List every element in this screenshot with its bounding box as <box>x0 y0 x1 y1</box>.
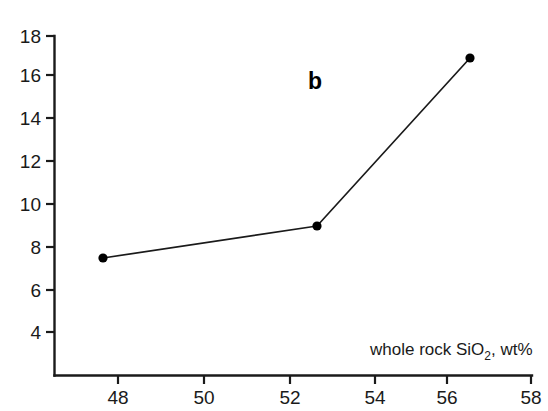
data-point <box>465 53 474 62</box>
panel-label: b <box>308 68 322 94</box>
y-tick-labels: 18 16 14 12 10 8 6 4 <box>20 26 42 343</box>
chart-figure: 18 16 14 12 10 8 6 4 48 50 52 54 56 58 <box>0 0 548 411</box>
data-point <box>312 221 321 230</box>
x-axis-label-after: , wt% <box>491 340 533 359</box>
x-axis-label: whole rock SiO2, wt% <box>369 340 533 363</box>
x-axis-label-before: whole rock SiO <box>369 340 484 359</box>
x-tick-label: 58 <box>520 387 541 408</box>
y-tick-marks <box>46 36 55 332</box>
x-tick-marks <box>118 376 531 385</box>
y-tick-label: 8 <box>30 237 41 258</box>
y-tick-label: 4 <box>30 322 41 343</box>
y-tick-label: 12 <box>20 151 41 172</box>
y-tick-label: 10 <box>20 194 41 215</box>
y-tick-label: 18 <box>20 26 41 47</box>
series-line-1 <box>103 58 470 258</box>
x-tick-label: 52 <box>279 387 300 408</box>
y-tick-label: 16 <box>20 65 41 86</box>
line-chart: 18 16 14 12 10 8 6 4 48 50 52 54 56 58 <box>0 0 548 411</box>
x-tick-labels: 48 50 52 54 56 58 <box>107 387 541 408</box>
x-tick-label: 50 <box>193 387 214 408</box>
x-tick-label: 56 <box>436 387 457 408</box>
axes-group <box>55 36 533 376</box>
x-tick-label: 54 <box>364 387 386 408</box>
x-tick-label: 48 <box>107 387 128 408</box>
data-point <box>98 253 107 262</box>
y-tick-label: 14 <box>20 108 42 129</box>
y-tick-label: 6 <box>30 280 41 301</box>
data-series-1 <box>98 53 474 262</box>
